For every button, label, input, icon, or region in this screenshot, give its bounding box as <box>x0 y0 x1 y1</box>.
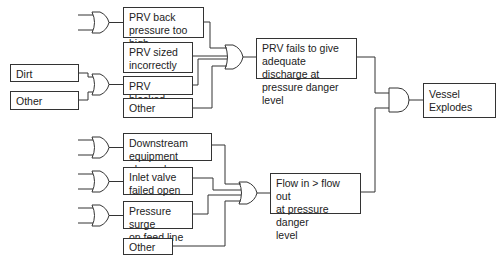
event-pressure-surge: Pressure surge on feed line <box>123 201 193 229</box>
event-other-prv: Other <box>123 98 193 118</box>
event-vessel-explodes: Vessel Explodes <box>423 83 496 118</box>
fault-tree-wires <box>0 0 499 263</box>
or-gate-prv-blocked <box>79 73 123 100</box>
event-prv-blocked: PRV blocked <box>123 76 193 95</box>
event-other-flow: Other <box>123 238 173 255</box>
or-gate-back-pressure <box>78 12 123 33</box>
or-gate-downstream <box>78 137 123 158</box>
event-other-blocked: Other <box>10 91 79 110</box>
event-downstream-plugged: Downstream equipment plugged <box>123 133 212 161</box>
or-gate-inlet <box>78 171 123 192</box>
event-inlet-valve-failed: Inlet valve failed open <box>123 167 193 195</box>
event-flow-in-exceeds-out: Flow in > flow out at pressure danger le… <box>270 173 361 214</box>
event-prv-back-pressure: PRV back pressure too high <box>123 7 204 38</box>
event-prv-sized-incorrectly: PRV sized incorrectly <box>123 42 193 73</box>
or-gate-surge <box>78 205 123 226</box>
and-gate-top <box>389 88 423 112</box>
event-prv-fails: PRV fails to give adequate discharge at … <box>256 38 357 79</box>
event-dirt: Dirt <box>10 64 79 82</box>
